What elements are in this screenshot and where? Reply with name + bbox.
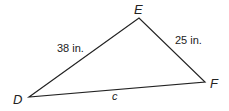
triangle-def: [29, 18, 205, 97]
triangle-diagram: D E F 38 in. 25 in. c: [0, 0, 229, 111]
side-label-de: 38 in.: [57, 42, 84, 54]
side-label-ef: 25 in.: [175, 34, 202, 46]
vertex-label-d: D: [13, 92, 22, 107]
vertex-label-e: E: [134, 2, 143, 17]
vertex-label-f: F: [210, 76, 219, 91]
side-label-df: c: [112, 90, 118, 102]
